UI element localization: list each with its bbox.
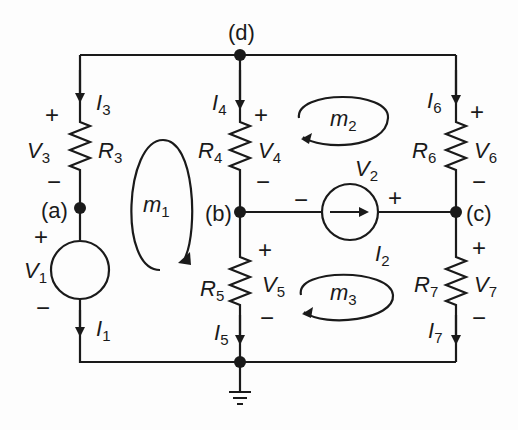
label-i5: I5 [214, 322, 228, 347]
v1-source-body [51, 241, 109, 299]
node-d-dot [234, 49, 246, 61]
label-i3: I3 [96, 92, 110, 117]
node-label-c: (c) [466, 203, 492, 225]
label-v7: V7 [474, 274, 497, 299]
label-mesh-m2: m2 [330, 108, 357, 133]
label-i4: I4 [212, 92, 226, 117]
circuit-wiring [0, 0, 518, 430]
node-label-b: (b) [205, 203, 232, 225]
node-ground-dot [234, 356, 246, 368]
v6-plus-sign: + [470, 100, 484, 124]
label-r3: R3 [98, 140, 122, 165]
v4-minus-sign: − [256, 170, 270, 194]
v3-plus-sign: + [45, 103, 59, 127]
node-c-dot [450, 206, 462, 218]
v2-plus-sign: + [388, 186, 402, 210]
label-i7: I7 [428, 320, 442, 345]
label-v3: V3 [27, 140, 50, 165]
label-v4: V4 [258, 140, 281, 165]
node-b-dot [234, 206, 246, 218]
label-v2: V2 [355, 158, 378, 183]
label-i6: I6 [427, 90, 441, 115]
label-v5: V5 [262, 274, 285, 299]
label-i2: I2 [375, 243, 389, 268]
label-v6: V6 [474, 140, 497, 165]
v4-plus-sign: + [254, 103, 268, 127]
circuit-diagram: (d) (a) (b) (c) I3 + V3 R3 − + V1 − I1 I… [0, 0, 518, 430]
v7-minus-sign: − [472, 306, 486, 330]
label-r6: R6 [412, 140, 436, 165]
m1-arrowhead [178, 252, 191, 265]
node-label-a: (a) [41, 200, 68, 222]
label-mesh-m3: m3 [330, 282, 357, 307]
label-mesh-m1: m1 [143, 194, 170, 219]
label-r7: R7 [414, 274, 438, 299]
v3-minus-sign: − [47, 170, 61, 194]
ground-icon [229, 392, 251, 404]
label-i1: I1 [96, 318, 110, 343]
label-r4: R4 [198, 140, 222, 165]
v5-plus-sign: + [258, 238, 272, 262]
v1-minus-sign: − [36, 296, 50, 320]
v5-minus-sign: − [260, 306, 274, 330]
m2-arrowhead [301, 133, 312, 144]
v2-minus-sign: − [294, 188, 308, 212]
node-a-dot [74, 202, 86, 214]
v1-plus-sign: + [34, 225, 48, 249]
node-label-d: (d) [228, 22, 255, 44]
label-v1: V1 [24, 260, 47, 285]
v6-minus-sign: − [472, 170, 486, 194]
v7-plus-sign: + [472, 236, 486, 260]
label-r5: R5 [200, 278, 224, 303]
